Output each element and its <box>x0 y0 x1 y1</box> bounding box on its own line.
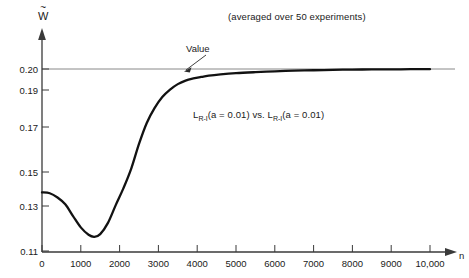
x-tick-label-1000: 1000 <box>70 258 91 269</box>
x-tick-label-8000: 8000 <box>342 258 363 269</box>
y-tick-label-019: 0.19 <box>8 85 38 96</box>
y-tick-label-011: 0.11 <box>8 246 38 257</box>
x-tick-label-0: 0 <box>39 258 44 269</box>
x-tick-label-3000: 3000 <box>148 258 169 269</box>
plot-canvas <box>0 0 469 278</box>
y-tick-label-020: 0.20 <box>8 64 38 75</box>
y-tick-label-015: 0.15 <box>8 167 38 178</box>
series-label-subscript-1: R-I <box>198 115 207 122</box>
x-tick-label-6000: 6000 <box>264 258 285 269</box>
x-tick-label-5000: 5000 <box>225 258 246 269</box>
x-tick-label-9000: 9000 <box>381 258 402 269</box>
series-label-middle: (a = 0.01) vs. L <box>208 109 273 120</box>
y-tick-label-013: 0.13 <box>8 201 38 212</box>
chart-figure: 0.20 0.19 0.17 0.15 0.13 0.11 0 1000 200… <box>0 0 469 278</box>
value-line-label: Value <box>186 44 210 54</box>
x-tick-label-10000: 10,000 <box>415 258 444 269</box>
y-axis-title: ~ W <box>38 6 48 22</box>
x-tick-label-7000: 7000 <box>303 258 324 269</box>
series-label-suffix: (a = 0.01) <box>282 109 324 120</box>
x-tick-label-4000: 4000 <box>187 258 208 269</box>
plot-background <box>0 0 469 278</box>
y-axis-title-text: W <box>38 10 48 22</box>
x-axis-title: n <box>459 251 464 261</box>
series-label-subscript-2: R-I <box>273 115 282 122</box>
x-tick-label-2000: 2000 <box>109 258 130 269</box>
chart-subtitle: (averaged over 50 experiments) <box>228 12 366 22</box>
series-label: LR-I(a = 0.01) vs. LR-I(a = 0.01) <box>193 110 324 122</box>
y-tick-label-017: 0.17 <box>8 122 38 133</box>
